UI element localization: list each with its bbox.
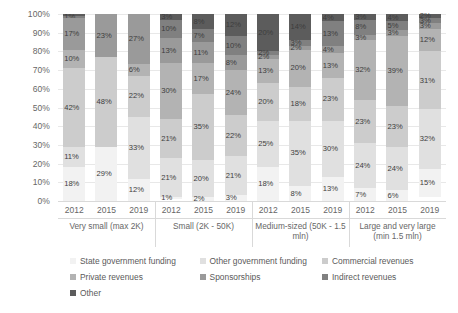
bar-segment[interactable]: 22% — [128, 76, 150, 117]
bar-segment[interactable]: 23% — [322, 78, 344, 121]
legend-item[interactable]: Private revenues — [70, 272, 200, 282]
legend-item[interactable]: Other — [70, 288, 214, 298]
bar-segment[interactable]: 12% — [128, 179, 150, 201]
bar-segment-label: 12% — [419, 36, 435, 44]
chart-legend: State government fundingOther government… — [70, 256, 430, 304]
stacked-bar[interactable]: 12%10%8%24%22%21%3% — [225, 14, 247, 201]
x-axis-year-label: 2012 — [349, 205, 381, 215]
legend-item[interactable]: Other government funding — [200, 256, 322, 266]
legend-row: Other — [70, 288, 430, 298]
legend-item[interactable]: Indirect revenues — [322, 272, 430, 282]
bar-segment[interactable]: 35% — [289, 121, 311, 186]
bar-segment[interactable]: 7% — [354, 188, 376, 201]
bar-segment[interactable]: 22% — [225, 115, 247, 156]
bar-segment[interactable]: 7% — [192, 29, 214, 42]
bar-segment-label: 8% — [289, 190, 301, 198]
stacked-bar[interactable]: 20%2%2%13%20%25%18% — [257, 14, 279, 201]
bar-segment[interactable]: 8% — [225, 55, 247, 70]
bar-segment[interactable]: 42% — [63, 68, 85, 147]
bar-segment[interactable]: 13% — [322, 177, 344, 201]
bar-segment[interactable]: 24% — [354, 143, 376, 188]
stacked-bar[interactable]: 1%17%10%42%11%18% — [63, 14, 85, 201]
bar-segment[interactable]: 32% — [354, 40, 376, 100]
bar-segment[interactable]: 6% — [386, 190, 408, 201]
bar-segment[interactable]: 32% — [419, 109, 441, 169]
stacked-bar[interactable]: 4%5%3%39%23%24%6% — [386, 14, 408, 201]
stacked-bar[interactable]: 3%10%13%30%21%21%1% — [160, 14, 182, 201]
bar-segment[interactable]: 21% — [225, 156, 247, 195]
bar-segment[interactable]: 11% — [192, 42, 214, 63]
bar-segment-label: 42% — [63, 104, 79, 112]
stacked-bar[interactable]: 3%8%3%32%23%24%7% — [354, 14, 376, 201]
bar-segment[interactable]: 30% — [322, 121, 344, 177]
bar-segment[interactable]: 15% — [419, 169, 441, 197]
bar-segment[interactable]: 10% — [160, 20, 182, 39]
x-axis-group-label: Small (2K - 50K) — [155, 218, 252, 249]
bar-segment-label: 11% — [192, 49, 208, 57]
x-axis-year-row: 201220152019 — [155, 201, 252, 218]
bar-segment[interactable]: 13% — [257, 59, 279, 83]
bar-segment[interactable]: 31% — [419, 51, 441, 109]
stacked-bar[interactable]: 23%48%29% — [95, 14, 117, 201]
bar-slot: 12%10%8%24%22%21%3% — [220, 14, 252, 201]
bar-segment[interactable]: 23% — [386, 106, 408, 147]
bar-segment[interactable]: 20% — [257, 83, 279, 120]
legend-item[interactable]: State government funding — [70, 256, 200, 266]
legend-item[interactable]: Sponsorships — [200, 272, 322, 282]
bar-segment-label: 14% — [289, 23, 305, 31]
stacked-bar[interactable]: 4%13%4%13%23%30%13% — [322, 14, 344, 201]
bar-segment[interactable]: 20% — [289, 50, 311, 87]
bar-segment[interactable]: 10% — [225, 36, 247, 55]
bar-segment[interactable]: 8% — [289, 186, 311, 201]
bar-segment[interactable]: 30% — [160, 63, 182, 119]
stacked-bar[interactable]: 2%3%3%12%31%32%15% — [419, 14, 441, 201]
bar-segment[interactable]: 39% — [386, 36, 408, 106]
bar-segment[interactable]: 29% — [95, 147, 117, 201]
bar-segment[interactable]: 35% — [192, 94, 214, 159]
bar-segment-label: 11% — [63, 153, 79, 161]
bar-segment[interactable]: 11% — [63, 147, 85, 168]
bar-segment[interactable]: 18% — [289, 87, 311, 121]
bar-segment[interactable]: 48% — [95, 57, 117, 147]
bar-segment[interactable]: 13% — [322, 21, 344, 45]
bar-segment[interactable]: 18% — [63, 167, 85, 201]
bar-segment[interactable]: 17% — [192, 63, 214, 95]
bar-segment[interactable]: 23% — [95, 14, 117, 57]
bar-segment-label: 8% — [354, 23, 366, 31]
bar-segment[interactable]: 24% — [386, 147, 408, 190]
bar-segment[interactable]: 21% — [160, 119, 182, 158]
bar-segment-label: 32% — [419, 135, 435, 143]
bar-segment[interactable]: 12% — [419, 29, 441, 51]
bar-segment[interactable]: 25% — [257, 121, 279, 168]
bar-segment[interactable]: 13% — [160, 38, 182, 62]
bar-segment[interactable]: 27% — [128, 14, 150, 64]
bar-segment[interactable]: 18% — [257, 167, 279, 201]
bar-segment[interactable]: 33% — [128, 117, 150, 179]
bar-segment[interactable]: 23% — [354, 100, 376, 143]
bar-segment-label: 13% — [322, 30, 338, 38]
bar-segment[interactable]: 24% — [225, 70, 247, 115]
bar-segment[interactable]: 13% — [322, 53, 344, 77]
stacked-bar[interactable]: 14%3%2%20%18%35%8% — [289, 14, 311, 201]
bar-segment[interactable]: 20% — [257, 14, 279, 51]
bar-segment-label: 13% — [322, 185, 338, 193]
stacked-bar[interactable]: 27%6%22%33%12% — [128, 14, 150, 201]
bar-segment[interactable]: 14% — [289, 14, 311, 40]
bar-segment[interactable]: 6% — [128, 64, 150, 75]
bar-segment[interactable]: 17% — [63, 18, 85, 50]
bar-segment-label: 15% — [419, 179, 435, 187]
bar-segment[interactable]: 4% — [322, 14, 344, 21]
bar-segment[interactable]: 8% — [192, 14, 214, 29]
bar-segment[interactable]: 4% — [322, 46, 344, 53]
x-axis-year-row: 201220152019 — [349, 201, 446, 218]
legend-item[interactable]: Commercial revenues — [322, 256, 430, 266]
bar-segment[interactable]: 12% — [225, 14, 247, 36]
legend-label: Other — [80, 288, 101, 298]
bar-segment-label: 21% — [160, 174, 176, 182]
bar-segment-label: 25% — [257, 140, 273, 148]
bar-segment[interactable]: 20% — [192, 160, 214, 197]
bar-segment[interactable]: 10% — [63, 50, 85, 69]
bar-segment[interactable]: 1% — [160, 197, 182, 199]
bar-segment[interactable]: 21% — [160, 158, 182, 197]
stacked-bar[interactable]: 8%7%11%17%35%20%2% — [192, 14, 214, 201]
